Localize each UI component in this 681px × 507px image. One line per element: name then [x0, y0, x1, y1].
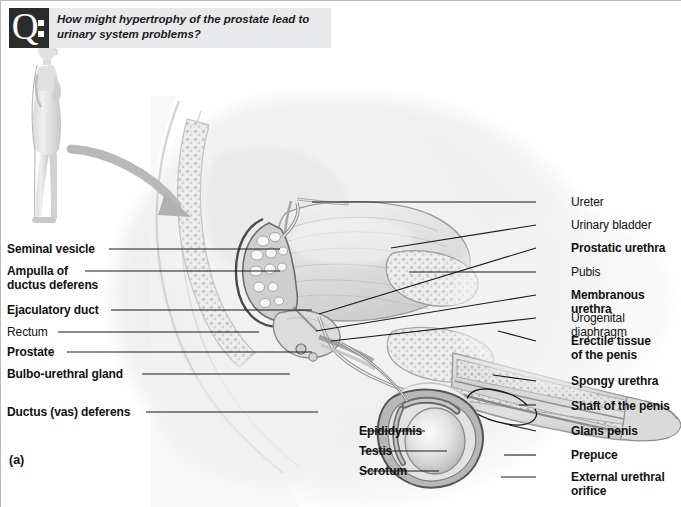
- curved-arrow-icon: [71, 149, 191, 217]
- label-pubis: Pubis: [571, 266, 601, 280]
- question-text: How might hypertrophy of the prostate le…: [49, 8, 331, 41]
- label-shaft-of-the-penis: Shaft of the penis: [571, 400, 670, 414]
- label-ejaculatory-duct: Ejaculatory duct: [7, 304, 99, 318]
- label-testis: Testis: [359, 445, 392, 459]
- leader-line-erectile-tissue: [498, 331, 536, 341]
- orientation-figure: [32, 39, 61, 223]
- label-ductus-vas-deferens: Ductus (vas) deferens: [7, 406, 130, 420]
- label-bulbo-urethral-gland: Bulbo-urethral gland: [7, 368, 123, 382]
- label-epididymis: Epididymis: [359, 425, 422, 439]
- leader-line-urogenital-diaphragm: [331, 318, 536, 341]
- label-erectile-tissue: Erectile tissue of the penis: [571, 335, 651, 362]
- leader-line-glans-penis: [509, 425, 536, 431]
- figure-page: Q How might hypertrophy of the prostate …: [0, 0, 681, 507]
- label-rectum: Rectum: [7, 326, 48, 340]
- figure-letter: (a): [9, 453, 24, 467]
- label-glans-penis: Glans penis: [571, 425, 638, 439]
- question-banner: Q How might hypertrophy of the prostate …: [9, 8, 331, 48]
- label-ampulla-ductus-deferens: Ampulla of ductus deferens: [7, 265, 98, 292]
- question-badge-colon-top: [38, 20, 44, 26]
- question-badge-letter: Q: [11, 5, 39, 49]
- label-scrotum: Scrotum: [359, 465, 407, 479]
- label-spongy-urethra: Spongy urethra: [571, 375, 658, 389]
- label-urinary-bladder: Urinary bladder: [571, 219, 652, 233]
- label-prostatic-urethra: Prostatic urethra: [571, 242, 665, 256]
- leader-line-membranous-urethra: [316, 295, 536, 331]
- leader-line-urinary-bladder: [391, 225, 536, 248]
- leader-line-prostatic-urethra: [319, 248, 536, 314]
- question-badge-icon: Q: [9, 8, 49, 48]
- label-external-urethral-orifice: External urethral orifice: [571, 471, 665, 498]
- label-seminal-vesicle: Seminal vesicle: [7, 243, 95, 257]
- leader-line-spongy-urethra: [493, 375, 536, 381]
- label-prepuce: Prepuce: [571, 449, 618, 463]
- question-badge-colon-bottom: [38, 31, 44, 37]
- label-ureter: Ureter: [571, 196, 604, 210]
- label-prostate: Prostate: [7, 346, 54, 360]
